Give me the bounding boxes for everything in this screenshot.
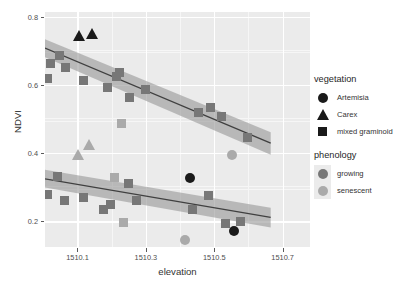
- data-point: [83, 139, 95, 150]
- legend-phenology-title: phenology: [314, 150, 372, 160]
- data-point: [46, 59, 55, 68]
- data-point: [61, 63, 70, 72]
- legend-item[interactable]: senescent: [314, 182, 372, 199]
- data-point: [236, 217, 245, 226]
- x-tick: [283, 248, 284, 252]
- data-point: [53, 172, 62, 181]
- y-tick: [41, 221, 45, 222]
- x-tick: [146, 248, 147, 252]
- fit-overlay: [45, 12, 310, 247]
- data-point: [72, 149, 84, 160]
- fit-line: [45, 48, 271, 143]
- legend-item-label: mixed graminoid: [337, 127, 393, 136]
- legend-item[interactable]: Carex: [314, 106, 393, 123]
- data-point: [79, 193, 88, 202]
- x-tick: [77, 248, 78, 252]
- legend-vegetation-title: vegetation: [314, 74, 393, 84]
- data-point: [243, 133, 252, 142]
- triangle-icon: [314, 106, 331, 123]
- data-point: [204, 191, 213, 200]
- square-icon: [314, 123, 331, 140]
- legend-phenology: phenology growingsenescent: [314, 150, 372, 199]
- data-point: [60, 196, 69, 205]
- y-tick-label: 0.6: [0, 81, 38, 90]
- legend-phenology-items: growingsenescent: [314, 165, 372, 199]
- y-tick-label: 0.2: [0, 217, 38, 226]
- legend-item[interactable]: Artemisia: [314, 89, 393, 106]
- data-point: [119, 218, 128, 227]
- plot-panel: [45, 12, 310, 247]
- data-point: [141, 85, 150, 94]
- circle-icon: [314, 89, 331, 106]
- circle-icon-glyph: [318, 186, 328, 196]
- data-point: [79, 76, 88, 85]
- data-point: [194, 108, 203, 117]
- legend-item-label: growing: [337, 169, 364, 178]
- data-point: [45, 74, 52, 83]
- data-point: [86, 28, 98, 39]
- legend-item-label: Artemisia: [337, 93, 369, 102]
- legend-vegetation: vegetation ArtemisiaCarexmixed graminoid: [314, 74, 393, 140]
- data-point: [206, 103, 215, 112]
- circle-icon-glyph: [318, 169, 328, 179]
- circle-icon: [314, 182, 331, 199]
- confidence-band: [45, 39, 271, 154]
- y-tick: [41, 153, 45, 154]
- data-point: [115, 68, 124, 77]
- data-point: [45, 190, 52, 199]
- legend-item-label: Carex: [337, 110, 357, 119]
- data-point: [103, 83, 112, 92]
- data-point: [110, 173, 119, 182]
- data-point: [55, 51, 64, 60]
- chart-root: elevation NDVI vegetation ArtemisiaCarex…: [0, 0, 404, 292]
- y-tick-label: 0.4: [0, 149, 38, 158]
- data-point: [73, 30, 85, 41]
- legend-item[interactable]: growing: [314, 165, 372, 182]
- square-icon-glyph: [318, 127, 328, 137]
- circle-icon-glyph: [318, 93, 328, 103]
- circle-icon: [314, 165, 331, 182]
- data-point: [125, 93, 134, 102]
- data-point: [229, 226, 239, 236]
- data-point: [117, 119, 126, 128]
- data-point: [106, 200, 115, 209]
- x-tick-label: 1510.3: [135, 253, 158, 262]
- data-point: [124, 179, 133, 188]
- y-tick: [41, 17, 45, 18]
- legend-item-label: senescent: [337, 186, 372, 195]
- x-tick-label: 1510.5: [203, 253, 226, 262]
- data-point: [217, 112, 226, 121]
- legend-vegetation-items: ArtemisiaCarexmixed graminoid: [314, 89, 393, 140]
- data-point: [180, 235, 190, 245]
- data-point: [188, 205, 197, 214]
- data-point: [132, 196, 141, 205]
- data-point: [221, 219, 230, 228]
- y-tick: [41, 85, 45, 86]
- x-tick-label: 1510.1: [66, 253, 89, 262]
- x-tick-label: 1510.7: [271, 253, 294, 262]
- legend-item[interactable]: mixed graminoid: [314, 123, 393, 140]
- x-axis-label: elevation: [45, 266, 310, 277]
- x-tick: [214, 248, 215, 252]
- y-tick-label: 0.8: [0, 13, 38, 22]
- triangle-icon-glyph: [317, 109, 329, 120]
